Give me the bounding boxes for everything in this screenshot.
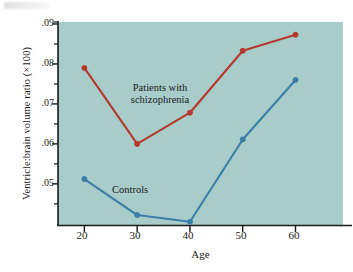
data-point [293,32,298,37]
annotation-patients-line1: Patients with [104,82,216,94]
chart-figure: Ventricle:brain volume ratio (×100) .09 … [0,0,353,272]
plot-panel [58,22,343,225]
data-point [135,141,140,146]
data-point [135,213,140,218]
annotation-patients: Patients with schizophrenia [104,82,216,105]
data-point [293,77,298,82]
data-point [240,48,245,53]
annotation-controls: Controls [112,184,176,196]
plot-svg [0,0,353,272]
data-point [82,65,87,70]
annotation-patients-line2: schizophrenia [104,94,216,106]
data-point [187,110,192,115]
data-point [240,137,245,142]
data-point [187,219,192,224]
data-point [82,177,87,182]
